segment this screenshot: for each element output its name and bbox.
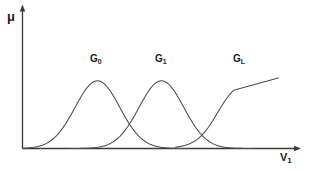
curves-group: [23, 78, 279, 148]
curve-label-g0-subscript: 0: [98, 58, 102, 65]
curve-label-gl-base: G: [233, 53, 241, 64]
curve-label-g1-subscript: 1: [163, 58, 167, 65]
curve-g1: [69, 81, 253, 149]
curve-label-g0: G0: [90, 54, 102, 64]
curve-g0: [23, 81, 190, 149]
curve-label-g0-base: G: [90, 53, 98, 64]
x-axis-arrow-head: [294, 146, 301, 151]
curve-gl: [176, 78, 279, 147]
curve-label-gl-subscript: L: [241, 58, 245, 65]
curve-label-g1: G1: [155, 54, 167, 64]
curve-label-gl: GL: [233, 54, 245, 64]
curve-label-g1-base: G: [155, 53, 163, 64]
membership-function-figure: μ V1 G0 G1 GL: [0, 0, 316, 171]
plot-canvas: [0, 0, 316, 171]
y-axis-label: μ: [7, 10, 15, 23]
x-axis-label-subscript: 1: [287, 156, 291, 165]
x-axis-label: V1: [280, 152, 292, 163]
y-axis-arrow-head: [20, 5, 25, 12]
